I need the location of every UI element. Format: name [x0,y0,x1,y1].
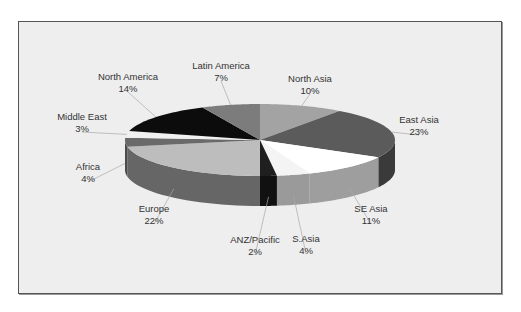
slice-percent: 4% [81,173,95,184]
slice-label: North America [98,71,159,82]
slice-percent: 3% [75,123,89,134]
slice-percent: 22% [144,215,164,226]
slice-side-anz-pacific [260,176,277,206]
slice-side-s-asia [277,173,310,205]
slice-label: SE Asia [354,203,388,214]
slice-percent: 14% [118,83,138,94]
slice-percent: 4% [299,245,313,256]
slice-label: S.Asia [292,233,320,244]
slice-percent: 10% [300,85,320,96]
slice-percent: 7% [214,72,228,83]
slice-percent: 2% [248,246,262,257]
slice-percent: 23% [409,126,429,137]
slice-label: Africa [76,161,101,172]
slice-label: Latin America [192,60,250,71]
pie-tops [125,104,395,176]
pie-chart: North Asia10%East Asia23%SE Asia11%S.Asi… [0,0,521,312]
slice-label: Europe [139,203,170,214]
slice-label: East Asia [399,114,439,125]
slice-percent: 11% [362,215,381,226]
leader-line [128,92,156,117]
slice-label: North Asia [288,73,333,84]
slice-label: ANZ/Pacific [230,234,280,245]
slice-label: Middle East [57,111,107,122]
leader-line [221,81,231,105]
